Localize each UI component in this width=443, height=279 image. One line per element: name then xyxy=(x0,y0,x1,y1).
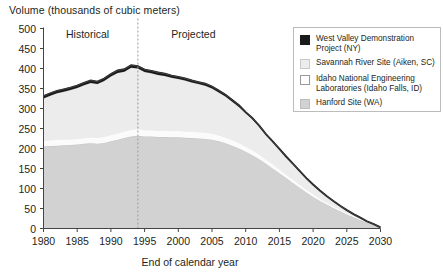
y-tick-label: 450 xyxy=(2,44,36,55)
y-tick-label: 150 xyxy=(2,164,36,175)
y-tick-label: 50 xyxy=(2,204,36,215)
area-series-0 xyxy=(44,136,381,229)
legend-item-label: Idaho National Engineering Laboratories … xyxy=(316,74,435,93)
y-tick-label: 300 xyxy=(2,104,36,115)
waste-volume-chart: Volume (thousands of cubic meters) Histo… xyxy=(0,0,443,279)
x-tick-label: 2030 xyxy=(361,236,401,247)
y-tick-label: 500 xyxy=(2,24,36,35)
legend-item: Savannah River Site (Aiken, SC) xyxy=(300,58,435,69)
chart-legend: West Valley Demonstration Project (NY)Sa… xyxy=(293,27,441,112)
legend-swatch-icon xyxy=(300,59,310,69)
y-tick-label: 100 xyxy=(2,184,36,195)
y-tick-label: 350 xyxy=(2,84,36,95)
legend-swatch-icon xyxy=(300,99,310,109)
y-tick-label: 400 xyxy=(2,64,36,75)
legend-item: West Valley Demonstration Project (NY) xyxy=(300,34,435,53)
legend-swatch-icon xyxy=(300,75,310,85)
legend-item-label: Savannah River Site (Aiken, SC) xyxy=(316,58,435,68)
historical-label: Historical xyxy=(66,29,109,40)
legend-item: Idaho National Engineering Laboratories … xyxy=(300,74,435,93)
legend-swatch-icon xyxy=(300,35,310,45)
legend-item-label: West Valley Demonstration Project (NY) xyxy=(316,34,435,53)
y-tick-label: 250 xyxy=(2,124,36,135)
x-axis-title: End of calendar year xyxy=(0,256,380,268)
y-tick-label: 200 xyxy=(2,144,36,155)
y-tick-label: 0 xyxy=(2,224,36,235)
projected-label: Projected xyxy=(171,29,215,40)
legend-item: Hanford Site (WA) xyxy=(300,98,435,109)
legend-item-label: Hanford Site (WA) xyxy=(316,98,382,108)
